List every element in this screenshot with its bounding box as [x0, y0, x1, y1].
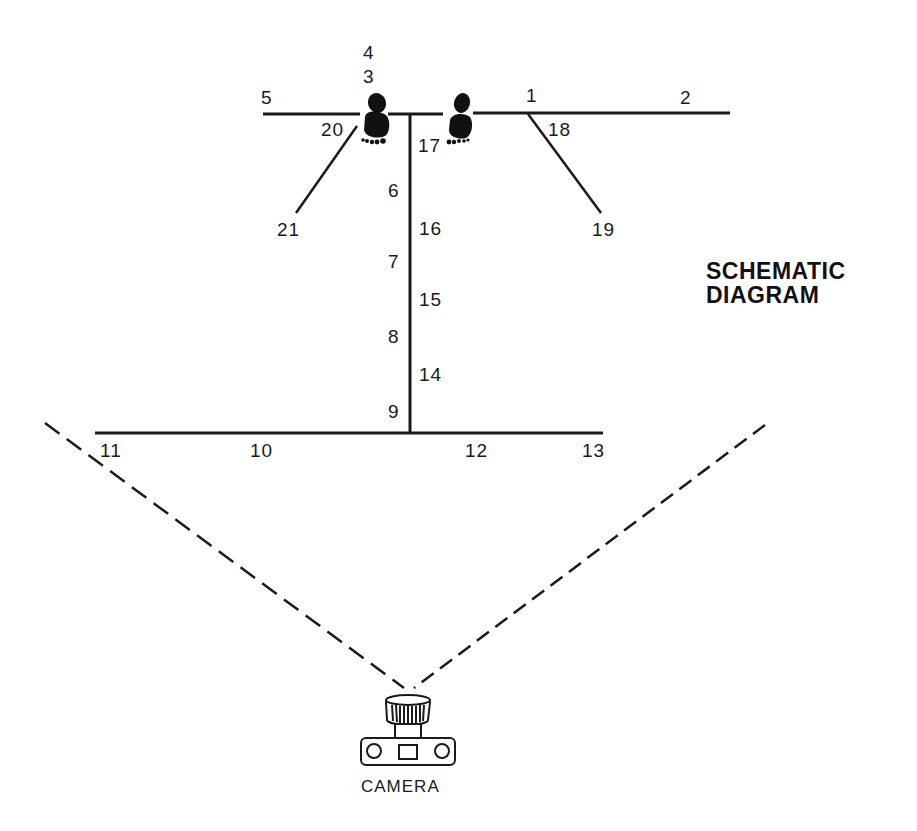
left-field-of-view-dashed-line	[45, 423, 404, 688]
point-label-20: 20	[321, 120, 344, 139]
point-label-17: 17	[418, 136, 441, 155]
point-label-10: 10	[250, 441, 273, 460]
camera-icon	[361, 695, 455, 765]
point-label-2: 2	[680, 88, 692, 107]
point-label-7: 7	[388, 252, 400, 271]
right-footprint-icon	[447, 91, 473, 144]
point-label-15: 15	[419, 290, 442, 309]
point-label-18: 18	[548, 120, 571, 139]
point-label-3: 3	[363, 67, 375, 86]
point-label-14: 14	[419, 365, 442, 384]
point-label-8: 8	[388, 327, 400, 346]
schematic-drawing	[0, 0, 917, 831]
point-label-21: 21	[277, 220, 300, 239]
title-line-1: SCHEMATIC	[706, 259, 846, 283]
point-label-19: 19	[592, 220, 615, 239]
point-label-16: 16	[419, 219, 442, 238]
point-label-9: 9	[388, 402, 400, 421]
point-label-1: 1	[526, 86, 538, 105]
right-field-of-view-dashed-line	[414, 425, 765, 688]
point-label-6: 6	[388, 181, 400, 200]
point-label-5: 5	[261, 88, 273, 107]
camera-label: CAMERA	[361, 777, 440, 797]
point-label-4: 4	[363, 43, 375, 62]
left-footprint-icon	[361, 91, 389, 145]
title-line-2: DIAGRAM	[706, 283, 846, 307]
point-label-13: 13	[582, 441, 605, 460]
diagram-title: SCHEMATIC DIAGRAM	[706, 259, 846, 307]
point-label-12: 12	[465, 441, 488, 460]
point-label-11: 11	[100, 441, 122, 460]
